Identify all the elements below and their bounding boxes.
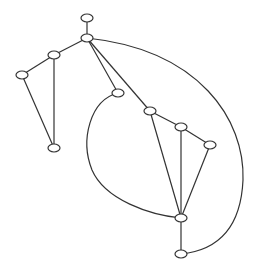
- graph-node: [204, 141, 216, 149]
- graph-node: [112, 89, 124, 97]
- graph-edge: [87, 38, 118, 93]
- graph-node: [144, 107, 156, 115]
- graph-node: [48, 51, 60, 59]
- graph-edge: [181, 145, 210, 218]
- graph-node: [175, 250, 187, 258]
- graph-node: [81, 34, 93, 42]
- graph-edge: [87, 38, 243, 254]
- graph-diagram: [0, 0, 255, 273]
- graph-node: [16, 71, 28, 79]
- graph-node: [48, 144, 60, 152]
- graph-node: [175, 214, 187, 222]
- graph-edge: [87, 93, 181, 218]
- graph-node: [175, 123, 187, 131]
- graph-nodes: [16, 14, 216, 258]
- graph-node: [81, 14, 93, 22]
- graph-edge: [22, 75, 54, 148]
